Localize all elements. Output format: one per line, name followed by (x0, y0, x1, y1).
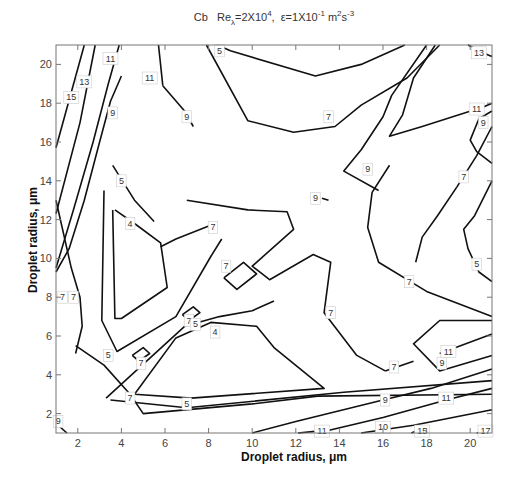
x-tick-label: 16 (377, 437, 389, 449)
contour-label: 4 (213, 327, 218, 337)
y-tick-label: 8 (46, 291, 52, 303)
contour-label: 5 (474, 259, 479, 269)
contour-label: 5 (193, 319, 198, 329)
x-tick-label: 8 (206, 437, 212, 449)
title-sep: , (272, 11, 275, 23)
contour-label: 7 (391, 362, 396, 372)
contour-label: 5 (217, 46, 222, 56)
x-tick-label: 20 (464, 437, 476, 449)
contour-label: 7 (138, 358, 143, 368)
contour-label: 11 (106, 54, 115, 64)
contour-label: 13 (474, 48, 484, 58)
contour-label: 5 (106, 350, 111, 360)
x-tick-label: 6 (162, 437, 168, 449)
title-eps-base: ε=1X10 (281, 11, 318, 23)
contour-label: 9 (383, 395, 388, 405)
contour-label: 15 (66, 92, 76, 102)
chart-background (0, 0, 518, 481)
contour-label: 11 (472, 104, 481, 114)
y-tick-label: 10 (40, 252, 52, 264)
y-tick-label: 4 (46, 369, 52, 381)
contour-label: 7 (328, 308, 333, 318)
contour-label: 11 (444, 347, 453, 357)
y-tick-label: 12 (40, 214, 52, 226)
contour-label: 9 (184, 112, 189, 122)
x-tick-label: 4 (118, 437, 124, 449)
title-unit-m: m (325, 11, 337, 23)
x-tick-label: 14 (333, 437, 345, 449)
contour-label: 9 (439, 358, 444, 368)
x-tick-label: 18 (420, 437, 432, 449)
contour-label: 7 (128, 393, 133, 403)
x-tick-label: 12 (290, 437, 302, 449)
title-prefix: Cb (194, 11, 208, 23)
x-tick-label: 2 (75, 437, 81, 449)
contour-label: 13 (79, 77, 89, 87)
contour-label: 9 (481, 118, 486, 128)
contour-label: 5 (119, 176, 124, 186)
contour-label: 7 (210, 222, 215, 232)
title-re-base: Re (217, 11, 231, 23)
y-axis-label: Droplet radius, μm (26, 187, 40, 293)
contour-label: 17 (480, 426, 490, 436)
contour-label: 7 (407, 277, 412, 287)
y-tick-label: 20 (40, 58, 52, 70)
contour-label: 5 (184, 399, 189, 409)
y-tick-label: 18 (40, 97, 52, 109)
contour-label: 9 (110, 108, 115, 118)
y-tick-label: 6 (46, 330, 52, 342)
contour-label: 15 (417, 426, 427, 436)
contour-label: 9 (313, 193, 318, 203)
contour-label: 4 (128, 219, 133, 229)
x-axis-label: Droplet radius, μm (241, 450, 347, 464)
contour-label: 11 (442, 393, 451, 403)
y-tick-label: 14 (40, 175, 52, 187)
contour-label: 9 (365, 164, 370, 174)
x-tick-label: 10 (246, 437, 258, 449)
contour-label: 11 (317, 426, 326, 436)
y-tick-label: 2 (46, 408, 52, 420)
contour-label: 7 (326, 112, 331, 122)
contour-label: 7 (223, 261, 228, 271)
title-re-value: =2X10 (235, 11, 267, 23)
title-unit-s-exp: -3 (347, 9, 355, 18)
contour-chart: Cb Reλ=2X104, ε=1X10-1 m2s-3 15131197954… (0, 0, 518, 481)
y-tick-label: 16 (40, 136, 52, 148)
contour-label: 11 (145, 73, 154, 83)
contour-label: 7 (71, 292, 76, 302)
contour-label: 7 (461, 172, 466, 182)
